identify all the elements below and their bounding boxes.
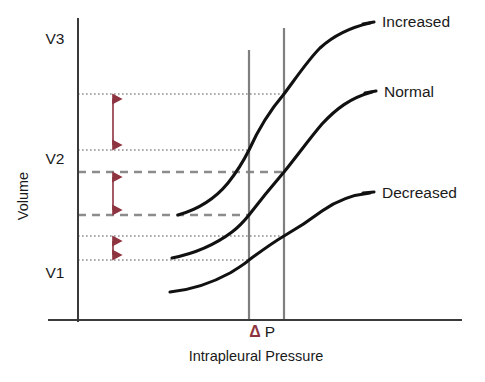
labels-group: V3 V2 V1 Increased Normal Decreased Δ P … xyxy=(15,13,457,364)
curves-group xyxy=(170,23,372,292)
leader-increased xyxy=(363,22,374,24)
series-label-decreased: Decreased xyxy=(382,184,457,201)
leader-decreased xyxy=(363,192,374,193)
delta-symbol: Δ xyxy=(249,323,261,340)
leader-normal xyxy=(365,91,376,93)
y-tick-label-v1: V1 xyxy=(46,264,65,281)
compliance-chart-figure: V3 V2 V1 Increased Normal Decreased Δ P … xyxy=(0,0,485,382)
y-axis-title: Volume xyxy=(15,172,31,220)
series-label-increased: Increased xyxy=(382,13,450,30)
curve-end-ticks-group xyxy=(363,22,376,193)
delta-p-label: P xyxy=(265,323,275,340)
chart-canvas: V3 V2 V1 Increased Normal Decreased Δ P … xyxy=(0,0,485,382)
axes-group xyxy=(48,18,462,322)
series-label-normal: Normal xyxy=(384,83,434,100)
x-axis-title: Intrapleural Pressure xyxy=(189,348,324,364)
y-tick-label-v3: V3 xyxy=(46,30,65,47)
curve-normal xyxy=(172,92,372,258)
delta-p-vertical-markers-group xyxy=(249,28,284,320)
y-tick-label-v2: V2 xyxy=(46,150,65,167)
reference-lines-group xyxy=(78,94,284,260)
